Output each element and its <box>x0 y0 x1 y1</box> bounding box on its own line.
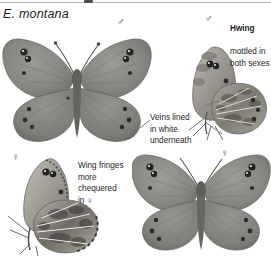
wing-fringes-callout: Wing fringes more chequered in ♀ <box>78 149 138 206</box>
top-divider-rule <box>0 2 271 3</box>
veins-callout-body: Veins lined in white underneath <box>150 113 191 145</box>
hwing-callout: Hwing mottled in both sexes <box>230 12 271 69</box>
female-symbol-lower-left: ♀ <box>12 152 20 162</box>
male-symbol-upper-right: ♂ <box>205 14 213 24</box>
butterfly-identification-plate: E. montana <box>0 0 271 256</box>
hwing-callout-body: mottled in both sexes <box>230 47 270 67</box>
male-symbol-upper-left: ♂ <box>117 17 125 27</box>
female-symbol-lower-right: ♀ <box>221 148 229 158</box>
wing-fringes-callout-body: Wing fringes more chequered in ♀ <box>78 161 124 204</box>
specimen-female-dorsal-large <box>132 152 271 256</box>
species-title: E. montana <box>3 7 69 21</box>
specimen-male-dorsal-large <box>2 26 152 142</box>
page-tab-mark <box>84 0 93 3</box>
hwing-callout-heading: Hwing <box>230 23 271 34</box>
veins-callout: Veins lined in white underneath <box>150 101 206 147</box>
